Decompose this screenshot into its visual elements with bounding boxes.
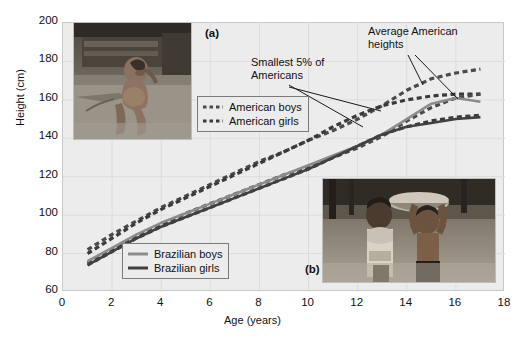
x-tick-14: 14 [395,296,417,308]
x-axis-ticks: 024681012141618 [0,296,514,314]
legend-american: American boysAmerican girls [197,96,309,132]
y-tick-180: 180 [24,52,58,64]
solid-line-swatch-icon [127,263,149,273]
photo-panel-a [73,22,192,140]
panel-a-tag: (a) [205,27,219,39]
legend-item-brazilian-boys: Brazilian boys [127,247,222,261]
x-tick-4: 4 [149,296,171,308]
avg-leader-1 [408,55,423,85]
y-tick-200: 200 [24,14,58,26]
x-tick-18: 18 [493,296,514,308]
x-tick-12: 12 [346,296,368,308]
legend-label: American girls [229,115,299,127]
legend-item-american-boys: American boys [202,100,302,114]
y-axis-label: Height (cm) [14,69,26,126]
legend-label: American boys [229,101,302,113]
dashed-line-swatch-icon [202,116,224,126]
height-by-age-figure: 6080100120140160180200 024681012141618 H… [0,0,514,338]
x-tick-6: 6 [198,296,220,308]
y-tick-60: 60 [24,283,58,295]
panel-b-tag: (b) [305,263,320,275]
legend-item-american-girls: American girls [202,114,302,128]
legend-label: Brazilian boys [154,248,222,260]
legend-brazilian: Brazilian boysBrazilian girls [122,243,229,279]
y-axis-ticks: 6080100120140160180200 [22,0,58,338]
x-tick-0: 0 [51,296,73,308]
annotation-average-american: Average American heights [368,25,478,51]
x-axis-label: Age (years) [224,314,281,326]
x-tick-8: 8 [247,296,269,308]
legend-item-brazilian-girls: Brazilian girls [127,261,222,275]
y-tick-100: 100 [24,206,58,218]
annotation-smallest-5-percent: Smallest 5% of Americans [251,56,347,82]
photo-panel-b [322,178,496,283]
legend-label: Brazilian girls [154,262,219,274]
x-tick-10: 10 [297,296,319,308]
y-tick-80: 80 [24,245,58,257]
x-tick-16: 16 [444,296,466,308]
y-tick-160: 160 [24,91,58,103]
solid-line-swatch-icon [127,249,149,259]
y-tick-140: 140 [24,129,58,141]
dashed-line-swatch-icon [202,102,224,112]
x-tick-2: 2 [100,296,122,308]
y-tick-120: 120 [24,168,58,180]
